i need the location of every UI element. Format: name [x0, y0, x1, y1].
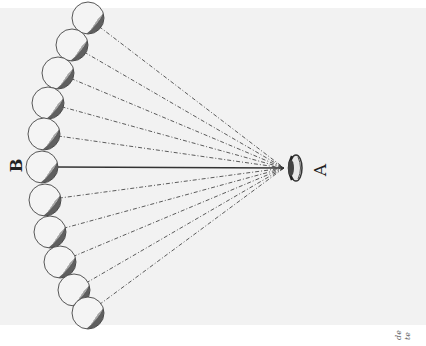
- margin-text-line1: de: [394, 330, 403, 340]
- margin-text: de te: [394, 330, 412, 340]
- sight-ray: [58, 136, 284, 168]
- sight-ray: [56, 167, 284, 168]
- sphere-icon: [32, 87, 64, 119]
- sphere-icon: [44, 246, 76, 278]
- sight-ray: [99, 168, 284, 305]
- sphere-icon: [29, 184, 61, 216]
- sphere-icon: [34, 216, 66, 248]
- sphere-icon: [42, 57, 74, 89]
- sight-ray: [84, 52, 284, 168]
- sight-ray: [61, 107, 284, 168]
- sphere-icon: [26, 151, 58, 183]
- eye-icon: [288, 155, 302, 181]
- sphere-icon: [28, 118, 60, 150]
- sphere-icon: [72, 2, 104, 34]
- sphere-icon: [56, 29, 88, 61]
- sight-ray: [71, 78, 284, 168]
- sight-ray: [99, 27, 284, 168]
- sight-ray: [73, 168, 284, 257]
- sphere-icon: [72, 297, 104, 329]
- spheres-arc: [26, 2, 104, 329]
- sight-ray: [64, 168, 284, 228]
- sight-ray: [86, 168, 284, 283]
- label-b: B: [7, 159, 26, 173]
- margin-text-line2: te: [403, 330, 412, 340]
- sight-rays: [56, 27, 284, 305]
- optics-diagram: [0, 0, 426, 346]
- label-a: A: [310, 164, 330, 176]
- sight-ray: [59, 168, 284, 198]
